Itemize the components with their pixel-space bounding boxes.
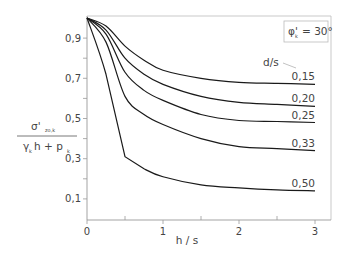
- legend-title-text: d/s: [263, 56, 279, 68]
- series-label: 0,20: [292, 92, 315, 104]
- curve-0-25: [87, 18, 315, 123]
- series-label: 0,25: [292, 109, 315, 121]
- y-tick-label: 0,1: [65, 193, 81, 204]
- ylabel-numerator-sub: zo,k: [45, 127, 55, 133]
- x-tick-label: 1: [160, 226, 166, 237]
- y-tick-label: 0,9: [65, 33, 81, 44]
- ylabel-numerator: σ': [31, 120, 41, 132]
- chart: 0,10,30,50,70,9 0123 0,150,200,250,330,5…: [0, 0, 347, 257]
- x-tick-label: 0: [84, 226, 90, 237]
- curves: [87, 18, 315, 191]
- series-label: 0,33: [292, 137, 315, 149]
- phi-annotation: φ' k = 30°: [284, 21, 333, 42]
- phi-subscript: k: [295, 33, 298, 39]
- y-tick-label: 0,3: [65, 153, 81, 164]
- y-tick-label: 0,5: [65, 113, 81, 124]
- x-axis-label: h / s: [176, 234, 198, 246]
- y-tick-label: 0,7: [65, 73, 81, 84]
- y-ticks: 0,10,30,50,70,9: [65, 33, 87, 205]
- ylabel-den-rest: h + p: [34, 140, 63, 152]
- ylabel-den-p-sub: k: [67, 148, 70, 154]
- curve-0-33: [87, 18, 315, 151]
- series-label: 0,15: [292, 70, 315, 82]
- legend-title: d/s: [263, 56, 296, 68]
- x-tick-label: 2: [236, 226, 242, 237]
- curve-0-15: [87, 18, 315, 84]
- x-tick-label: 3: [312, 226, 318, 237]
- series-labels: 0,150,200,250,330,50: [292, 70, 315, 189]
- phi-value: = 30°: [302, 25, 333, 37]
- y-axis-label: σ' zo,k γ k h + p k: [17, 120, 77, 154]
- curve-0-20: [87, 18, 315, 106]
- ylabel-den-gamma-sub: k: [29, 148, 32, 154]
- x-ticks: 0123: [84, 216, 318, 237]
- leader-line: [283, 63, 296, 68]
- series-label: 0,50: [292, 177, 315, 189]
